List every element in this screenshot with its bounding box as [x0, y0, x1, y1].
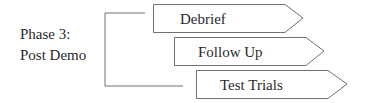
step-follow-up: Follow Up	[175, 38, 325, 66]
step-label: Debrief	[180, 11, 226, 27]
step-test-trials: Test Trials	[197, 71, 348, 99]
step-label: Test Trials	[220, 77, 283, 93]
step-debrief: Debrief	[154, 5, 304, 33]
phase-diagram: Debrief Follow Up Test Trials	[0, 0, 366, 103]
step-label: Follow Up	[198, 44, 263, 60]
arrow-shape	[154, 5, 304, 33]
